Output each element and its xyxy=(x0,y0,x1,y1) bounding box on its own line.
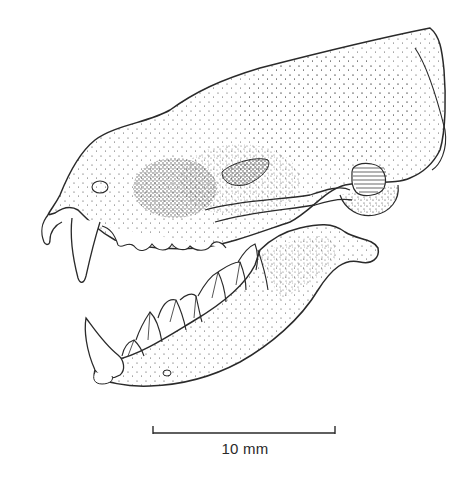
upper-incisor xyxy=(42,215,62,244)
scale-bar xyxy=(153,426,335,434)
auditory-meatus xyxy=(352,163,387,195)
cranium xyxy=(42,28,446,282)
lower-canine xyxy=(85,318,123,378)
scale-bar-label: 10 mm xyxy=(200,440,290,457)
skull-illustration xyxy=(0,0,471,486)
upper-canine xyxy=(71,218,100,282)
mandible xyxy=(85,225,378,386)
